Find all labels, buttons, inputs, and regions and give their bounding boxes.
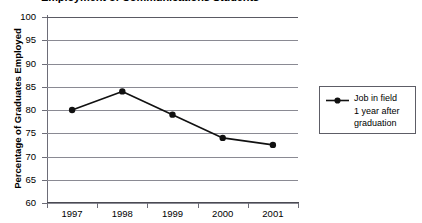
y-tick-label: 75 — [10, 128, 36, 138]
data-point — [69, 107, 75, 113]
data-series-layer — [47, 17, 298, 203]
chart-title: Employment of Communications Students — [0, 0, 300, 3]
data-point — [169, 111, 175, 117]
y-tick-label: 90 — [10, 59, 36, 69]
series-line — [72, 91, 273, 144]
x-tick-mark — [198, 203, 199, 208]
legend-item-label: Job in field 1 year after graduation — [350, 92, 411, 130]
y-tick-label: 100 — [10, 12, 36, 22]
y-tick-label: 65 — [10, 175, 36, 185]
y-tick-label: 70 — [10, 152, 36, 162]
data-point — [119, 88, 125, 94]
line-chart: Employment of Communications Students Pe… — [0, 0, 422, 223]
x-tick-mark — [248, 203, 249, 208]
y-tick-label: 80 — [10, 105, 36, 115]
y-tick-label: 60 — [10, 198, 36, 208]
x-tick-mark — [97, 203, 98, 208]
x-tick-label: 2001 — [250, 209, 296, 219]
y-tick-label: 85 — [10, 82, 36, 92]
data-point — [220, 135, 226, 141]
x-tick-mark — [147, 203, 148, 208]
x-tick-label: 1999 — [150, 209, 196, 219]
line-with-circle-marker-icon — [325, 93, 350, 106]
y-tick-label: 95 — [10, 35, 36, 45]
x-tick-label: 1997 — [49, 209, 95, 219]
gridline — [47, 203, 298, 204]
series-markers — [69, 88, 276, 148]
legend-item: Job in field 1 year after graduation — [320, 87, 415, 133]
legend: Job in field 1 year after graduation — [319, 86, 416, 134]
x-tick-mark — [298, 203, 299, 208]
x-tick-label: 1998 — [99, 209, 145, 219]
x-tick-mark — [47, 203, 48, 208]
data-point — [270, 142, 276, 148]
x-tick-label: 2000 — [200, 209, 246, 219]
